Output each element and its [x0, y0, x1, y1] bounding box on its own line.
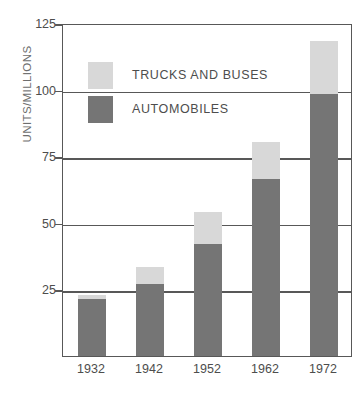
y-axis-tick-mark — [55, 91, 62, 93]
bar-group — [78, 295, 106, 356]
x-axis-tick-label: 1932 — [77, 362, 105, 376]
bar-group — [136, 267, 164, 356]
x-axis-tick-labels: 19321942195219621972 — [62, 362, 352, 386]
legend-label-automobiles: AUTOMOBILES — [132, 102, 229, 116]
bar-group — [252, 142, 280, 356]
x-axis-tick-label: 1972 — [309, 362, 337, 376]
legend-item-automobiles: AUTOMOBILES — [88, 92, 268, 126]
legend-swatch-automobiles — [88, 96, 113, 123]
legend-item-trucks-and-buses: TRUCKS AND BUSES — [88, 58, 268, 92]
bar-segment-automobiles — [136, 284, 164, 356]
x-axis-tick-label: 1952 — [193, 362, 221, 376]
legend-label-trucks-and-buses: TRUCKS AND BUSES — [132, 68, 268, 82]
bar-segment-automobiles — [310, 94, 338, 356]
stacked-bar-chart: UNITS/MILLIONS 255075100125 193219421952… — [0, 0, 364, 394]
y-axis-tick-label: 50 — [20, 217, 56, 231]
y-axis-tick-mark — [55, 157, 62, 159]
bar-segment-automobiles — [78, 299, 106, 356]
y-axis-tick-mark — [55, 290, 62, 292]
chart-legend: TRUCKS AND BUSES AUTOMOBILES — [88, 58, 268, 126]
y-axis-tick-labels: 255075100125 — [18, 0, 56, 394]
bar-segment-automobiles — [194, 244, 222, 356]
y-axis-tick-label: 100 — [20, 84, 56, 98]
bar-segment-trucks-and-buses — [194, 212, 222, 244]
gridline — [63, 158, 351, 160]
bar-segment-trucks-and-buses — [310, 41, 338, 94]
y-axis-tick-label: 125 — [20, 17, 56, 31]
bar-group — [310, 41, 338, 356]
y-axis-tick-mark — [55, 24, 62, 26]
x-axis-tick-label: 1962 — [251, 362, 279, 376]
bar-group — [194, 212, 222, 356]
bar-segment-trucks-and-buses — [252, 142, 280, 179]
y-axis-tick-label: 75 — [20, 150, 56, 164]
bar-segment-trucks-and-buses — [136, 267, 164, 284]
y-axis-tick-label: 25 — [20, 283, 56, 297]
bar-segment-automobiles — [252, 179, 280, 356]
x-axis-tick-label: 1942 — [135, 362, 163, 376]
legend-swatch-trucks-and-buses — [88, 62, 113, 89]
y-axis-tick-mark — [55, 224, 62, 226]
